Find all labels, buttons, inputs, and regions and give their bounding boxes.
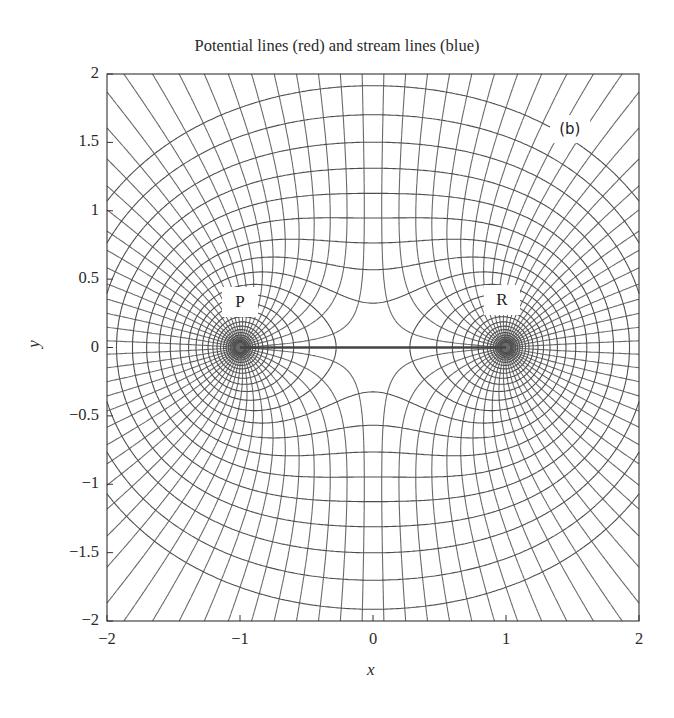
x-tick-label: 1 (481, 629, 531, 649)
y-tick-label: 0 (39, 337, 99, 357)
point-p-label: P (222, 287, 258, 317)
y-tick-label: 2 (39, 63, 99, 83)
point-r-label: R (484, 285, 520, 315)
x-tick-label: −2 (82, 629, 132, 649)
y-tick-label: −1 (39, 473, 99, 493)
y-tick-label: −0.5 (39, 405, 99, 425)
y-tick-label: −1.5 (39, 542, 99, 562)
x-axis-title: x (367, 660, 375, 680)
x-tick-label: 2 (614, 629, 664, 649)
y-tick-label: −2 (39, 610, 99, 630)
x-tick-label: −1 (215, 629, 265, 649)
y-axis-title: y (24, 340, 44, 348)
y-tick-label: 1.5 (39, 131, 99, 151)
y-tick-label: 0.5 (39, 268, 99, 288)
contour-figure: Potential lines (red) and stream lines (… (0, 0, 674, 718)
plot-area (0, 0, 674, 718)
y-tick-label: 1 (39, 200, 99, 220)
x-tick-label: 0 (348, 629, 398, 649)
panel-label: (b) (550, 115, 590, 143)
